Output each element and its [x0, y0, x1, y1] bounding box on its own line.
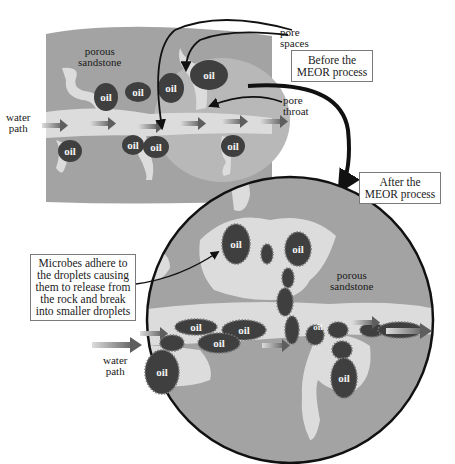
svg-text:oil: oil [230, 238, 242, 250]
porous-sandstone-label-before: porous sandstone [78, 46, 121, 68]
pore-throat-label: pore throat [283, 95, 309, 117]
porous-sandstone-label-after: porous sandstone [330, 270, 373, 292]
svg-text:oil: oil [190, 321, 202, 333]
svg-text:oil: oil [100, 91, 112, 103]
svg-text:oil: oil [203, 69, 215, 81]
after-panel: oiloiloil oiloiloil oiloil [92, 174, 440, 463]
svg-text:oil: oil [165, 82, 177, 94]
water-path-label-before: water path [6, 112, 30, 134]
before-meor-caption: Before the MEOR process [291, 50, 373, 82]
svg-text:oil: oil [227, 140, 239, 152]
svg-text:oil: oil [150, 141, 162, 153]
pore-spaces-label: pore spaces [280, 27, 309, 49]
after-meor-caption: After the MEOR process [359, 172, 441, 204]
svg-text:oil: oil [64, 145, 76, 157]
svg-text:oil: oil [156, 366, 168, 378]
svg-text:oil: oil [127, 139, 139, 151]
water-path-label-after: water path [103, 355, 127, 377]
svg-text:oil: oil [132, 86, 144, 98]
svg-text:oil: oil [292, 243, 304, 255]
svg-text:oil: oil [238, 324, 250, 336]
svg-text:oil: oil [338, 372, 350, 384]
meor-diagram-graphic: oiloiloil oiloiloil oiloil [0, 0, 455, 464]
microbes-callout: Microbes adhere to the droplets causing … [30, 254, 136, 321]
svg-text:oil: oil [313, 322, 323, 332]
svg-text:oil: oil [213, 337, 225, 349]
